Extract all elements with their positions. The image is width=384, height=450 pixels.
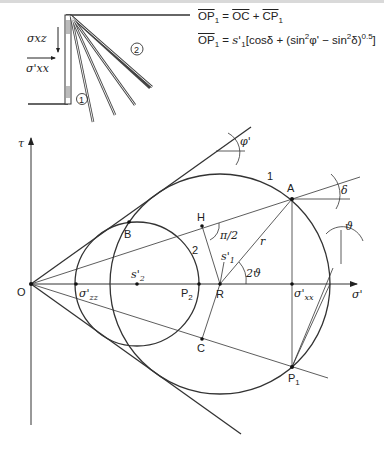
label-b: B: [124, 228, 131, 240]
sigma-xz-label: σxz: [27, 32, 47, 45]
point-p2: [197, 282, 201, 286]
label-sigma-zz: σ'zz: [79, 287, 99, 302]
lower-envelope-line: [31, 284, 241, 434]
phi-arc: [228, 133, 240, 165]
wall-shade-bottom: [66, 86, 70, 98]
origin-label: O: [17, 286, 26, 298]
zone-2-label: 2: [134, 45, 139, 55]
sigma-xx-label: σ'xx: [26, 62, 50, 75]
points: [29, 197, 294, 369]
point-p1: [290, 365, 294, 369]
radius-label: r: [260, 235, 266, 248]
tau-label: τ: [18, 137, 25, 150]
theta-line: [292, 268, 333, 367]
point-b: [127, 220, 131, 224]
line-h-r: [202, 226, 220, 284]
circle-2-label: 2: [192, 244, 198, 256]
delta-label: δ: [341, 184, 348, 197]
point-r: [218, 282, 222, 286]
s1-line: [220, 262, 224, 284]
phi-label: φ': [240, 135, 251, 148]
sigma-label: σ': [352, 288, 363, 301]
two-theta-label: 2ϑ: [245, 267, 261, 280]
point-s2: [135, 282, 139, 286]
right-angle-label: π/2: [219, 229, 238, 242]
label-p2: P2: [181, 287, 193, 302]
label-a: A: [287, 182, 295, 194]
point-sigma-zz: [74, 282, 78, 286]
zone-1-label: 1: [79, 95, 84, 105]
label-sigma-xx: σ'xx: [294, 287, 314, 302]
point-h: [200, 224, 204, 228]
label-r: R: [216, 288, 224, 300]
delta-arc: [331, 174, 340, 209]
line-o-p1: [31, 284, 328, 378]
label-h: H: [197, 211, 205, 223]
label-s1: s'1: [221, 250, 235, 265]
wall-inset: σxz σ'xx 1 2: [26, 15, 190, 122]
point-o: [29, 282, 33, 286]
mohr-plot: τ σ' φ' δ ϑ 2ϑ π/2: [17, 127, 363, 434]
label-p1: P1: [288, 372, 300, 387]
mohr-diagram: σxz σ'xx 1 2 τ σ' φ': [0, 0, 384, 450]
label-s2: s'2: [131, 268, 145, 283]
point-sigma-xx: [290, 282, 294, 286]
upper-envelope-line: [31, 127, 251, 284]
wall-shade-top: [66, 20, 70, 34]
circle-1-label: 1: [267, 170, 273, 182]
label-c: C: [197, 342, 205, 354]
line-o-a: [31, 177, 360, 284]
point-c: [200, 337, 204, 341]
point-a: [290, 197, 294, 201]
theta-label: ϑ: [345, 220, 353, 233]
slip-line-inner: [71, 16, 115, 115]
